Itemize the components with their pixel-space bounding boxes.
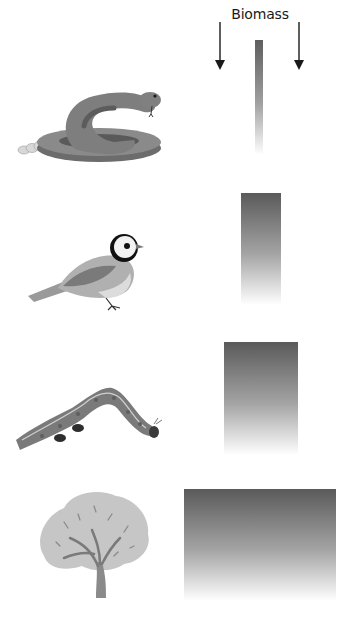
biomass-title: Biomass (222, 6, 298, 22)
down-arrow-right-icon (294, 22, 304, 74)
biomass-bar-caterpillar (224, 342, 298, 455)
tree-illustration (34, 486, 154, 602)
biomass-bar-bird (241, 193, 281, 305)
biomass-bar-tree (184, 489, 336, 601)
snake-illustration (14, 78, 164, 168)
bird-illustration (28, 228, 148, 310)
down-arrow-left-icon (215, 22, 225, 74)
biomass-bar-snake (255, 40, 263, 155)
caterpillar-illustration (12, 378, 160, 448)
